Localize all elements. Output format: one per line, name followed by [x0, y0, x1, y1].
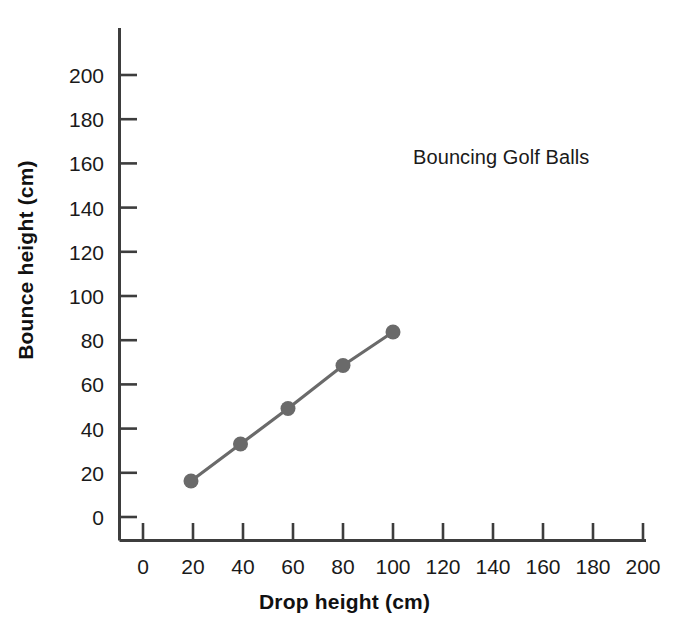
data-point [336, 358, 351, 373]
data-point [281, 401, 296, 416]
x-tick-label-0: 0 [137, 556, 149, 577]
x-tick-label-100: 100 [375, 556, 410, 577]
y-tick-label-200: 200 [50, 65, 104, 86]
y-tick-label-40: 40 [50, 418, 104, 439]
data-point [386, 325, 401, 340]
data-point [184, 474, 199, 489]
x-tick-label-80: 80 [331, 556, 354, 577]
y-tick-label-160: 160 [50, 153, 104, 174]
x-tick-label-60: 60 [281, 556, 304, 577]
x-tick-label-180: 180 [575, 556, 610, 577]
x-axis-ticks [143, 523, 643, 541]
chart-title: Bouncing Golf Balls [413, 146, 589, 169]
y-tick-label-100: 100 [50, 286, 104, 307]
y-tick-label-120: 120 [50, 241, 104, 262]
y-axis-title: Bounce height (cm) [14, 140, 38, 380]
x-tick-label-20: 20 [181, 556, 204, 577]
y-tick-label-80: 80 [50, 330, 104, 351]
x-axis-title: Drop height (cm) [0, 590, 689, 614]
y-tick-label-20: 20 [50, 462, 104, 483]
y-tick-label-140: 140 [50, 197, 104, 218]
x-tick-label-40: 40 [231, 556, 254, 577]
plot-canvas [0, 0, 689, 644]
y-tick-label-180: 180 [50, 109, 104, 130]
chart-figure: 0 20 40 60 80 100 120 140 160 180 200 0 … [0, 0, 689, 644]
x-tick-label-160: 160 [525, 556, 560, 577]
x-tick-label-140: 140 [475, 556, 510, 577]
y-tick-label-0: 0 [50, 507, 104, 528]
data-point [233, 437, 248, 452]
y-axis-ticks [120, 75, 138, 517]
y-tick-label-60: 60 [50, 374, 104, 395]
x-tick-label-200: 200 [625, 556, 660, 577]
x-tick-label-120: 120 [425, 556, 460, 577]
